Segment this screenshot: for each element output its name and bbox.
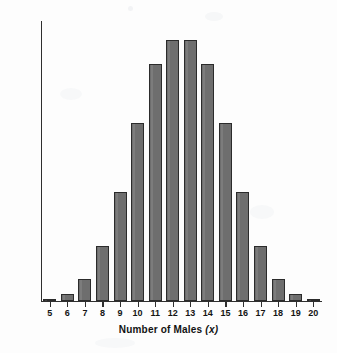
- scan-speckle: [95, 338, 135, 348]
- x-tick-8: [102, 302, 103, 307]
- bar-10: [131, 123, 144, 301]
- x-axis-label-variable: (x): [205, 324, 218, 335]
- x-tick-label-16: 16: [238, 308, 248, 318]
- bar-13: [184, 40, 197, 301]
- bar-8: [96, 246, 109, 301]
- x-tick-16: [243, 302, 244, 307]
- x-tick-18: [278, 302, 279, 307]
- bar-16: [236, 192, 249, 301]
- x-tick-15: [225, 302, 226, 307]
- x-tick-label-8: 8: [100, 308, 105, 318]
- probability-histogram-figure: Probability 567891011121314151617181920 …: [0, 0, 337, 353]
- x-tick-label-7: 7: [82, 308, 87, 318]
- x-tick-label-5: 5: [47, 308, 52, 318]
- x-tick-13: [190, 302, 191, 307]
- scan-speckle: [205, 12, 223, 21]
- bar-series: [41, 21, 322, 301]
- x-tick-label-12: 12: [168, 308, 178, 318]
- x-tick-7: [85, 302, 86, 307]
- x-axis-label-main: Number of Males: [119, 324, 203, 335]
- x-tick-11: [155, 302, 156, 307]
- scan-speckle: [128, 6, 133, 11]
- bar-9: [114, 192, 127, 301]
- y-axis-label: Probability: [0, 0, 30, 353]
- x-tick-label-9: 9: [118, 308, 123, 318]
- bar-5: [43, 299, 56, 302]
- x-tick-label-20: 20: [308, 308, 318, 318]
- x-tick-label-18: 18: [273, 308, 283, 318]
- x-tick-label-17: 17: [256, 308, 266, 318]
- x-tick-label-15: 15: [220, 308, 230, 318]
- bar-20: [307, 299, 320, 302]
- bar-15: [219, 123, 232, 301]
- x-tick-label-6: 6: [65, 308, 70, 318]
- x-tick-10: [138, 302, 139, 307]
- bar-19: [289, 294, 302, 301]
- bar-11: [149, 64, 162, 301]
- x-tick-label-10: 10: [133, 308, 143, 318]
- x-tick-label-11: 11: [150, 308, 160, 318]
- x-tick-5: [50, 302, 51, 307]
- bar-7: [78, 279, 91, 301]
- x-tick-9: [120, 302, 121, 307]
- bar-18: [272, 279, 285, 301]
- bar-17: [254, 246, 267, 301]
- x-tick-12: [173, 302, 174, 307]
- x-tick-label-13: 13: [185, 308, 195, 318]
- x-tick-6: [67, 302, 68, 307]
- bar-14: [201, 64, 214, 301]
- bar-6: [61, 294, 74, 301]
- x-tick-19: [296, 302, 297, 307]
- x-axis-label: Number of Males (x): [0, 324, 337, 335]
- x-tick-17: [261, 302, 262, 307]
- x-tick-label-19: 19: [291, 308, 301, 318]
- x-tick-label-14: 14: [203, 308, 213, 318]
- x-tick-20: [313, 302, 314, 307]
- x-axis-line: [41, 301, 322, 302]
- bar-12: [166, 40, 179, 301]
- x-tick-14: [208, 302, 209, 307]
